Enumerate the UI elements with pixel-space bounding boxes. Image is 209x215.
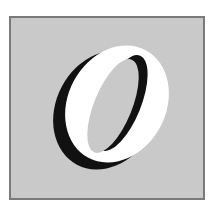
letter-o-icon: [0, 0, 209, 215]
